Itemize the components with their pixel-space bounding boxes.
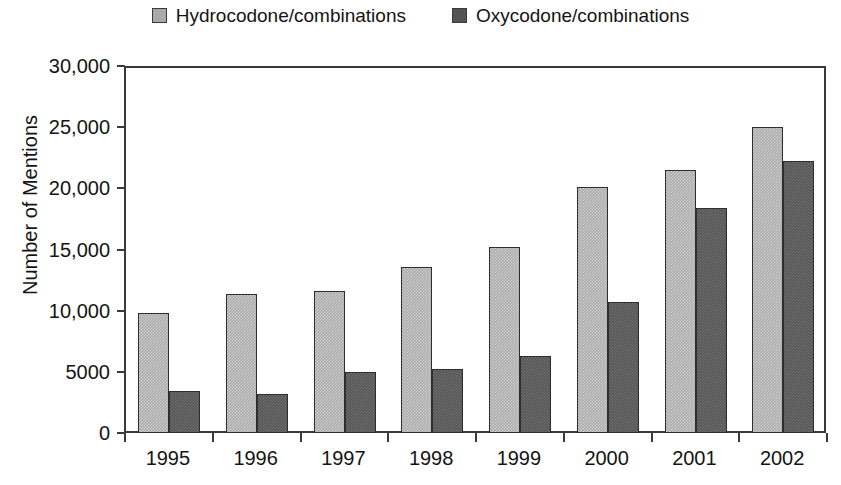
bar — [608, 302, 639, 433]
bar — [345, 372, 376, 433]
bar — [520, 356, 551, 433]
bar-group — [475, 66, 563, 433]
x-axis-tick-label: 1995 — [124, 447, 212, 469]
bars-layer — [124, 66, 826, 433]
bar — [401, 267, 432, 433]
bar — [169, 391, 200, 433]
bar — [752, 127, 783, 433]
bar-group — [738, 66, 826, 433]
bar-group — [212, 66, 300, 433]
bar — [696, 208, 727, 433]
x-axis-tick — [563, 433, 565, 442]
bar — [577, 187, 608, 433]
x-axis-tick — [475, 433, 477, 442]
x-axis-tick-label: 1997 — [300, 447, 388, 469]
y-axis-tick-label: 0 — [0, 423, 110, 443]
legend-label-hydrocodone: Hydrocodone/combinations — [176, 6, 406, 25]
y-axis-tick-label: 25,000 — [0, 117, 110, 137]
bar-group — [300, 66, 388, 433]
y-axis-tick-label: 20,000 — [0, 178, 110, 198]
bar — [226, 294, 257, 433]
legend-label-oxycodone: Oxycodone/combinations — [476, 6, 689, 25]
x-axis-tick-label: 1999 — [475, 447, 563, 469]
y-axis-tick-label: 30,000 — [0, 56, 110, 76]
x-axis-tick-label: 2002 — [738, 447, 826, 469]
bar-group — [651, 66, 739, 433]
bar — [138, 313, 169, 433]
x-axis-tick — [651, 433, 653, 442]
bar — [783, 161, 814, 433]
x-axis-tick — [826, 433, 828, 442]
bar-chart: Hydrocodone/combinations Oxycodone/combi… — [0, 0, 841, 485]
legend-swatch-oxycodone-icon — [452, 8, 467, 23]
x-axis-tick-label: 2001 — [651, 447, 739, 469]
bar-group — [387, 66, 475, 433]
bar-group — [563, 66, 651, 433]
bar — [432, 369, 463, 433]
x-axis-tick — [212, 433, 214, 442]
legend-swatch-hydrocodone-icon — [152, 8, 167, 23]
x-axis: 19951996199719981999200020012002 — [124, 433, 826, 485]
bar — [314, 291, 345, 433]
y-axis-tick-label: 5000 — [0, 362, 110, 382]
y-axis-tick-label: 10,000 — [0, 301, 110, 321]
x-axis-tick-label: 2000 — [563, 447, 651, 469]
x-axis-tick-label: 1998 — [387, 447, 475, 469]
chart-legend: Hydrocodone/combinations Oxycodone/combi… — [0, 6, 841, 25]
x-axis-tick-label: 1996 — [212, 447, 300, 469]
bar-group — [124, 66, 212, 433]
bar — [665, 170, 696, 433]
x-axis-tick — [387, 433, 389, 442]
bar — [489, 247, 520, 433]
y-axis-tick-label: 15,000 — [0, 240, 110, 260]
legend-item-oxycodone: Oxycodone/combinations — [452, 6, 689, 25]
x-axis-tick — [124, 433, 126, 442]
x-axis-tick — [738, 433, 740, 442]
legend-item-hydrocodone: Hydrocodone/combinations — [152, 6, 406, 25]
x-axis-tick — [300, 433, 302, 442]
bar — [257, 394, 288, 433]
